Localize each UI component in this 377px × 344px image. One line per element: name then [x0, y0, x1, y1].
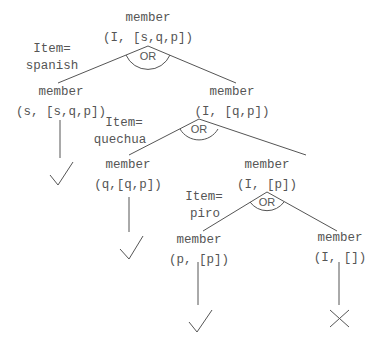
node-q-name: member: [105, 158, 150, 172]
or-label-rest1: OR: [191, 123, 208, 135]
node-s: member (s, [s,q,p]): [16, 85, 106, 119]
binding-piro: Item= piro: [185, 190, 223, 221]
binding-piro-line2: piro: [190, 207, 220, 221]
node-empty-args: (I, []): [314, 251, 367, 265]
node-p-name: member: [176, 233, 221, 247]
binding-piro-line1: Item=: [185, 190, 223, 204]
search-tree-diagram: member (I, [s,q,p]) OR Item= spanish mem…: [0, 0, 377, 344]
node-p-args: (p, [p]): [169, 253, 229, 267]
node-p: member (p, [p]): [169, 233, 229, 267]
node-root-name: member: [125, 11, 170, 25]
node-rest2-name: member: [244, 158, 289, 172]
cross-mark-icon: [330, 310, 349, 327]
binding-spanish: Item= spanish: [26, 42, 79, 73]
node-rest1-name: member: [209, 85, 254, 99]
node-empty-name: member: [317, 231, 362, 245]
binding-spanish-line1: Item=: [33, 42, 71, 56]
node-rest1-args: (I, [q,p]): [194, 105, 269, 119]
or-branch-root: OR: [58, 46, 236, 83]
edge-root-right: [148, 46, 236, 83]
binding-spanish-line2: spanish: [26, 59, 79, 73]
binding-quechua: Item= quechua: [94, 116, 147, 147]
node-q-args: (q,[q,p]): [94, 178, 162, 192]
check-mark-icon: [50, 162, 73, 185]
edge-rest2-right: [267, 192, 337, 231]
node-empty: member (I, []): [314, 231, 367, 265]
node-root-args: (I, [s,q,p]): [103, 31, 193, 45]
edge-rest1-right: [199, 119, 306, 155]
or-label-root: OR: [140, 50, 157, 62]
node-rest1: member (I, [q,p]): [194, 85, 269, 119]
or-branch-rest1: OR: [129, 119, 306, 155]
binding-quechua-line1: Item=: [105, 116, 143, 130]
node-s-name: member: [38, 85, 83, 99]
node-rest2: member (I, [p]): [237, 158, 297, 192]
node-root: member (I, [s,q,p]): [103, 11, 193, 45]
or-label-rest2: OR: [259, 196, 276, 208]
node-q: member (q,[q,p]): [94, 158, 162, 192]
check-mark-icon: [120, 236, 143, 259]
or-branch-rest2: OR: [203, 192, 337, 231]
binding-quechua-line2: quechua: [94, 133, 147, 147]
node-rest2-args: (I, [p]): [237, 178, 297, 192]
check-mark-icon: [189, 310, 212, 332]
node-s-args: (s, [s,q,p]): [16, 105, 106, 119]
